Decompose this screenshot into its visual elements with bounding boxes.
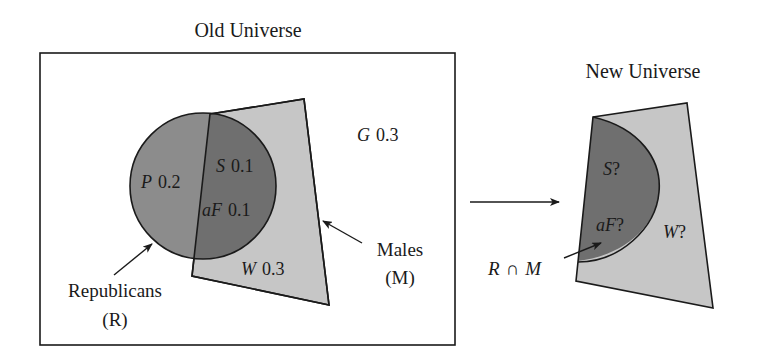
new-region-s-label: S?: [603, 159, 620, 179]
region-w-label: W0.3: [241, 259, 285, 279]
republicans-label: Republicans: [68, 280, 162, 301]
males-label: Males: [377, 239, 423, 260]
new-universe-title: New Universe: [586, 60, 701, 82]
old-universe-title: Old Universe: [194, 19, 301, 41]
old-universe: Old Universe P0.2 S0.1 aF0.1 W0.3 G0.3 R…: [40, 19, 455, 345]
republicans-symbol: (R): [102, 309, 127, 331]
region-s-label: S0.1: [216, 156, 254, 176]
republicans-arrow-icon: [114, 244, 152, 275]
new-region-af-label: aF?: [596, 215, 624, 235]
region-p-label: P0.2: [140, 172, 181, 192]
intersection-label: R∩M: [487, 258, 542, 279]
new-region-w-label: W?: [663, 222, 686, 242]
universe-diagram: Old Universe P0.2 S0.1 aF0.1 W0.3 G0.3 R…: [0, 0, 758, 360]
males-arrow-icon: [323, 221, 362, 243]
males-symbol: (M): [385, 267, 415, 289]
new-universe: New Universe S? aF? W? R∩M: [487, 60, 713, 308]
region-g-label: G0.3: [357, 125, 399, 145]
